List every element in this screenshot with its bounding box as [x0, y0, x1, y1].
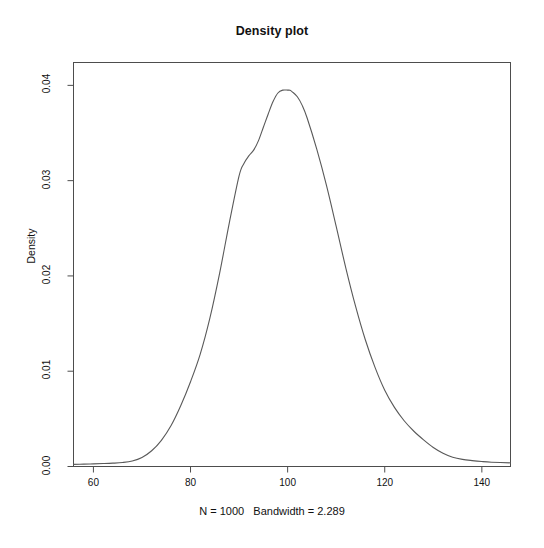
density-plot-figure: Density plot Density 0.000.010.020.030.0…: [0, 0, 544, 548]
x-axis-ticks: [93, 467, 481, 473]
y-tick-label: 0.02: [40, 252, 51, 296]
y-tick-label: 0.01: [40, 348, 51, 392]
y-axis-title: Density: [25, 206, 37, 286]
y-tick-label: 0.04: [40, 62, 51, 106]
x-tick-label: 100: [268, 477, 308, 488]
y-tick-label: 0.00: [40, 443, 51, 487]
plot-canvas: [0, 0, 544, 548]
x-tick-label: 120: [365, 477, 405, 488]
plot-subtitle: N = 1000 Bandwidth = 2.289: [0, 505, 544, 517]
x-tick-label: 60: [73, 477, 113, 488]
y-tick-label: 0.03: [40, 157, 51, 201]
plot-box-frame: [74, 63, 511, 467]
density-curve: [74, 90, 511, 464]
x-tick-label: 140: [462, 477, 502, 488]
y-axis-ticks: [68, 85, 74, 466]
x-tick-label: 80: [171, 477, 211, 488]
